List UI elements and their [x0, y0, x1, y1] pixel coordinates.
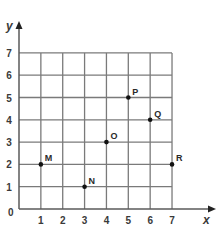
point-marker-icon — [126, 95, 131, 100]
point-marker-icon — [148, 118, 153, 123]
point-marker-icon — [39, 162, 44, 167]
data-points: MNOPQR — [39, 87, 183, 190]
y-tick-label: 3 — [6, 137, 12, 148]
point-label: N — [89, 176, 96, 186]
x-tick-label: 3 — [82, 215, 88, 226]
point-label: R — [176, 153, 183, 163]
x-tick-label: 4 — [104, 215, 110, 226]
x-tick-label: 2 — [60, 215, 66, 226]
grid-lines — [19, 53, 172, 209]
y-tick-label: 6 — [6, 70, 12, 81]
x-tick-label: 1 — [38, 215, 44, 226]
y-tick-label: 5 — [6, 93, 12, 104]
y-tick-label: 4 — [6, 115, 12, 126]
x-axis-arrow-icon — [208, 206, 216, 213]
point-marker-icon — [170, 162, 175, 167]
y-tick-label: 1 — [6, 182, 12, 193]
x-tick-label: 6 — [147, 215, 153, 226]
axes: x y 0 — [5, 19, 216, 227]
y-tick-label: 7 — [6, 48, 12, 59]
point-label: O — [110, 131, 117, 141]
point-label: Q — [154, 109, 161, 119]
y-axis-label: y — [5, 19, 14, 33]
x-axis-label: x — [202, 213, 211, 227]
point-marker-icon — [104, 140, 109, 145]
point-label: M — [45, 153, 53, 163]
x-tick-label: 5 — [126, 215, 132, 226]
point-label: P — [132, 87, 138, 97]
x-tick-label: 7 — [169, 215, 175, 226]
origin-label: 0 — [8, 207, 14, 218]
coordinate-grid-chart: x y 0 12345671234567 MNOPQR — [0, 0, 223, 234]
y-tick-label: 2 — [6, 159, 12, 170]
y-axis-arrow-icon — [16, 21, 23, 29]
point-marker-icon — [82, 184, 87, 189]
